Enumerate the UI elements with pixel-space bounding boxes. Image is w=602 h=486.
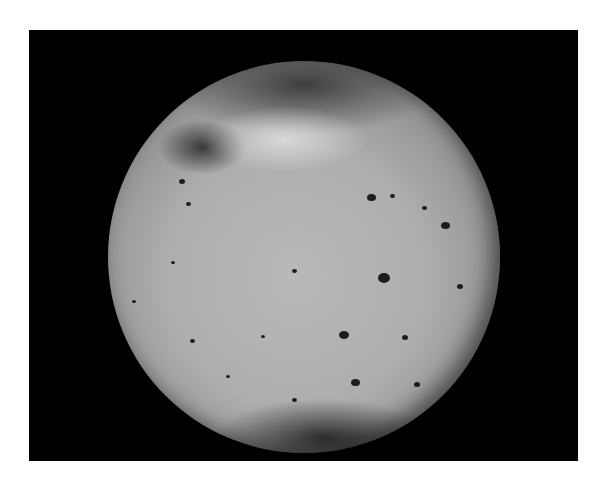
surface-spot — [190, 339, 195, 343]
surface-spot — [132, 300, 136, 303]
surface-spot — [422, 206, 427, 210]
surface-spot — [351, 379, 360, 386]
surface-spot — [186, 202, 191, 206]
surface-spot — [171, 261, 175, 264]
surface-spot — [367, 194, 376, 201]
surface-spot — [226, 375, 230, 378]
moon-sphere — [108, 61, 500, 453]
surface-spot — [457, 284, 463, 289]
surface-spot — [402, 335, 408, 340]
surface-spot — [414, 382, 420, 387]
surface-spot — [378, 273, 390, 283]
surface-spot — [261, 335, 265, 338]
surface-spot — [390, 194, 395, 198]
surface-spot — [441, 222, 450, 229]
surface-spot — [292, 269, 297, 273]
image-frame — [29, 30, 578, 461]
surface-spot — [339, 331, 349, 339]
surface-spot — [292, 398, 297, 402]
surface-spot — [179, 179, 185, 184]
